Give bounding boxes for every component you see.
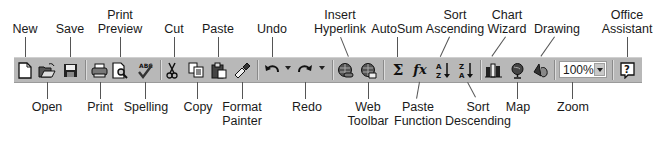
separator xyxy=(85,60,86,80)
sort-ascending-icon: AZ xyxy=(435,62,451,79)
leader-chart-wizard xyxy=(491,36,506,56)
separator xyxy=(480,60,481,80)
function-fx-icon: fx xyxy=(413,61,426,79)
label-cut: Cut xyxy=(164,22,183,36)
leader-office-assistant xyxy=(627,37,628,57)
redo-dropdown-arrow[interactable] xyxy=(319,66,325,70)
label-spelling: Spelling xyxy=(124,100,168,114)
svg-text:?: ? xyxy=(624,64,630,75)
label-zoom: Zoom xyxy=(557,100,589,114)
separator xyxy=(612,60,613,80)
zoom-value: 100% xyxy=(563,63,594,77)
scissors-icon xyxy=(166,62,178,79)
sort-descending-button[interactable]: ZA xyxy=(457,61,475,79)
leader-paste-function xyxy=(416,82,420,99)
sigma-icon: Σ xyxy=(393,61,404,79)
paintbrush-icon xyxy=(233,62,251,79)
chart-wizard-icon xyxy=(485,62,502,78)
separator xyxy=(332,60,333,80)
leader-save xyxy=(70,37,71,57)
zoom-dropdown-arrow[interactable] xyxy=(594,63,605,76)
cut-button[interactable] xyxy=(163,61,181,79)
zoom-dropdown[interactable]: 100% xyxy=(559,61,607,78)
separator xyxy=(383,60,384,80)
label-web-toolbar: WebToolbar xyxy=(348,100,389,128)
map-globe-icon xyxy=(510,62,525,79)
paste-button[interactable] xyxy=(210,61,228,79)
label-chart-wizard: ChartWizard xyxy=(488,8,527,36)
leader-sort-ascending xyxy=(440,37,450,57)
insert-hyperlink-button[interactable] xyxy=(336,61,354,79)
format-painter-button[interactable] xyxy=(233,61,251,79)
copy-button[interactable] xyxy=(187,61,205,79)
label-undo: Undo xyxy=(257,22,287,36)
office-assistant-button[interactable]: ? xyxy=(618,61,636,79)
leader-web-toolbar xyxy=(368,82,369,99)
label-copy: Copy xyxy=(183,100,212,114)
label-map: Map xyxy=(506,100,530,114)
clipboard-paste-icon xyxy=(211,62,227,79)
sort-descending-icon: ZA xyxy=(458,62,474,79)
print-preview-button[interactable] xyxy=(111,61,129,79)
open-button[interactable] xyxy=(38,61,56,79)
separator xyxy=(257,60,258,80)
hyperlink-globe-icon xyxy=(337,62,354,79)
save-button[interactable] xyxy=(61,61,79,79)
svg-text:A: A xyxy=(459,72,465,79)
print-preview-icon xyxy=(112,62,128,79)
autosum-button[interactable]: Σ xyxy=(389,61,407,79)
leader-new xyxy=(25,37,26,57)
leader-print xyxy=(100,82,101,99)
leader-zoom xyxy=(572,82,573,99)
undo-dropdown-arrow[interactable] xyxy=(285,66,291,70)
label-sort-ascending: SortAscending xyxy=(426,8,484,36)
label-redo: Redo xyxy=(292,100,322,114)
label-office-assistant: OfficeAssistant xyxy=(602,8,653,36)
leader-cut xyxy=(174,37,175,57)
spell-check-icon: ABC xyxy=(136,62,154,79)
sort-ascending-button[interactable]: AZ xyxy=(434,61,452,79)
separator xyxy=(554,60,555,80)
label-paste: Paste xyxy=(202,22,234,36)
new-button[interactable] xyxy=(16,61,34,79)
standard-toolbar: ABC Σ fx AZ ZA xyxy=(14,57,642,83)
leader-print-preview xyxy=(120,37,121,57)
leader-format-painter xyxy=(242,82,243,99)
undo-button[interactable] xyxy=(263,61,281,79)
web-globe-icon xyxy=(360,62,377,79)
svg-text:Z: Z xyxy=(436,72,441,79)
open-folder-icon xyxy=(38,63,56,78)
leader-redo xyxy=(305,82,306,99)
leader-insert-hyperlink xyxy=(340,37,349,57)
copy-icon xyxy=(188,62,204,78)
label-sort-descending: SortDescending xyxy=(445,100,511,128)
web-toolbar-button[interactable] xyxy=(359,61,377,79)
chart-wizard-button[interactable] xyxy=(484,61,502,79)
leader-copy xyxy=(197,82,198,99)
help-question-icon: ? xyxy=(620,62,635,79)
label-drawing: Drawing xyxy=(534,22,580,36)
svg-text:A: A xyxy=(436,63,442,71)
label-save: Save xyxy=(56,22,85,36)
leader-paste xyxy=(218,37,219,57)
print-button[interactable] xyxy=(90,61,108,79)
label-print-preview: PrintPreview xyxy=(98,8,142,36)
label-new: New xyxy=(12,22,37,36)
redo-arrow-icon xyxy=(297,64,313,76)
leader-open xyxy=(47,82,48,99)
label-print: Print xyxy=(87,100,113,114)
label-open: Open xyxy=(32,100,63,114)
redo-button[interactable] xyxy=(296,61,314,79)
map-button[interactable] xyxy=(508,61,526,79)
label-autosum: AutoSum xyxy=(371,22,422,36)
paste-function-button[interactable]: fx xyxy=(411,61,429,79)
label-insert-hyperlink: InsertHyperlink xyxy=(314,8,366,36)
leader-spelling xyxy=(145,82,146,99)
leader-undo xyxy=(272,37,273,57)
leader-autosum xyxy=(397,37,398,57)
drawing-shapes-icon xyxy=(532,62,549,79)
spelling-button[interactable]: ABC xyxy=(136,61,154,79)
drawing-button[interactable] xyxy=(531,61,549,79)
label-paste-function: PasteFunction xyxy=(394,100,442,128)
leader-drawing xyxy=(540,36,555,56)
